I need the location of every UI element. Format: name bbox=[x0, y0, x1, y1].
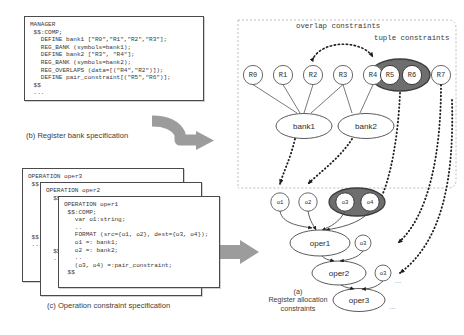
overlap-constraint-arc bbox=[314, 44, 373, 57]
ellipsis-oper2: ... bbox=[395, 276, 402, 285]
register-label: R7 bbox=[437, 71, 445, 79]
manager-spec-window[interactable]: MANAGER $$:COMP; DEFINE bank1 ["R0","R1"… bbox=[24, 16, 204, 101]
register-label: R5 bbox=[386, 71, 394, 79]
oper1-spec-code: OPERATION oper1 $$:COMP; var o1:string; … bbox=[59, 197, 219, 281]
operation-node-oper3[interactable]: oper3 bbox=[333, 289, 385, 312]
caption-a: (a) Register allocation constraints bbox=[258, 288, 338, 313]
operand-node-o3[interactable]: o3 bbox=[336, 193, 354, 211]
operand-node-oper1-o3[interactable]: o3 bbox=[355, 235, 371, 251]
panel-a-dashed-border bbox=[238, 20, 456, 188]
bank2-to-o2-link bbox=[308, 139, 352, 184]
r7-to-oper1-operand-link bbox=[398, 85, 441, 243]
caption-a-text: Register allocation constraints bbox=[268, 295, 327, 312]
register-label: R0 bbox=[249, 71, 257, 79]
operation-node-oper1[interactable]: oper1 bbox=[290, 230, 350, 256]
register-node-r1[interactable]: R1 bbox=[273, 65, 292, 84]
register-label: R2 bbox=[309, 71, 317, 79]
register-bank-edges bbox=[253, 85, 373, 113]
figure-root: R0 R1 R2 R3 R4 R5 R6 R7 bbox=[0, 0, 464, 335]
operation-node-oper2[interactable]: oper2 bbox=[312, 261, 366, 285]
operand-node-o1[interactable]: o1 bbox=[271, 193, 289, 211]
arrow-spec-to-graph bbox=[152, 121, 214, 150]
register-label: R6 bbox=[408, 71, 416, 79]
r7-to-oper2-operand-link bbox=[400, 100, 452, 273]
bank-label: bank2 bbox=[355, 122, 377, 131]
operand-label: o2 bbox=[305, 199, 312, 206]
bank1-to-o1-link bbox=[280, 139, 295, 184]
oper1-spec-window[interactable]: OPERATION oper1 $$:COMP; var o1:string; … bbox=[58, 196, 220, 288]
bank-label: bank1 bbox=[293, 122, 315, 131]
ellipsis-oper3: ... bbox=[389, 302, 396, 311]
operand-label: o3 bbox=[360, 240, 367, 247]
register-label: R1 bbox=[279, 71, 287, 79]
register-node-r5[interactable]: R5 bbox=[380, 65, 399, 84]
caption-b: (b) Register bank specification bbox=[26, 131, 128, 140]
register-node-r0[interactable]: R0 bbox=[243, 65, 262, 84]
bank-node-bank1[interactable]: bank1 bbox=[276, 114, 332, 139]
tuple-to-operand-pair-link bbox=[380, 93, 400, 200]
register-node-r4[interactable]: R4 bbox=[363, 65, 382, 84]
register-label: R3 bbox=[339, 71, 347, 79]
operation-label: oper1 bbox=[310, 239, 331, 248]
register-node-r6[interactable]: R6 bbox=[402, 65, 421, 84]
operand-node-o4[interactable]: o4 bbox=[361, 193, 379, 211]
operand-label: o3 bbox=[342, 199, 349, 206]
overlap-constraints-label: overlap constraints bbox=[296, 22, 380, 30]
bank-node-bank2[interactable]: bank2 bbox=[338, 114, 394, 139]
register-label: R4 bbox=[369, 71, 377, 79]
operand-label: o4 bbox=[367, 199, 374, 206]
operand-label: o1 bbox=[277, 199, 284, 206]
operand-node-oper2-o3[interactable]: o3 bbox=[375, 265, 391, 281]
register-node-r2[interactable]: R2 bbox=[303, 65, 322, 84]
tuple-constraints-label: tuple constraints bbox=[374, 34, 449, 42]
manager-spec-code: MANAGER $$:COMP; DEFINE bank1 ["R0","R1"… bbox=[25, 17, 203, 101]
operation-label: oper3 bbox=[349, 296, 370, 305]
register-node-r7[interactable]: R7 bbox=[431, 65, 450, 84]
operand-label: o3 bbox=[380, 270, 387, 277]
caption-c: (c) Operation constraint specification bbox=[47, 301, 170, 310]
register-node-r3[interactable]: R3 bbox=[333, 65, 352, 84]
operand-node-o2[interactable]: o2 bbox=[299, 193, 317, 211]
operation-label: oper2 bbox=[329, 269, 350, 278]
